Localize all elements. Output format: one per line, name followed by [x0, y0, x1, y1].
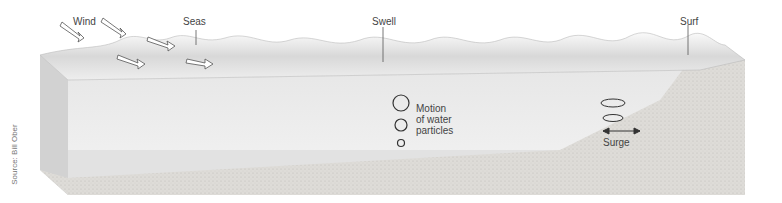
label-motion-of-water-particles: Motionof waterparticles	[416, 103, 453, 136]
ocean-wave-diagram	[0, 0, 782, 203]
label-seas: Seas	[183, 16, 206, 27]
label-surge: Surge	[603, 137, 630, 148]
label-swell: Swell	[372, 16, 396, 27]
label-surf: Surf	[680, 16, 698, 27]
label-wind: Wind	[73, 16, 96, 27]
source-credit: Source: Bill Ober	[10, 124, 19, 184]
